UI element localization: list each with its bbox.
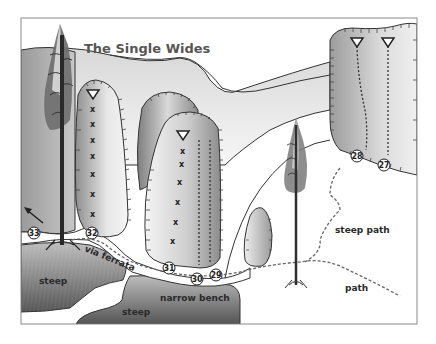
label-path: path bbox=[345, 283, 368, 293]
bolt-x-icon: x bbox=[90, 120, 96, 129]
bolt-x-icon: x bbox=[90, 105, 96, 114]
bolt-x-icon: x bbox=[90, 170, 96, 179]
bolt-x-icon: x bbox=[90, 190, 96, 199]
bolt-x-icon: x bbox=[179, 160, 185, 169]
label-steep-left: steep bbox=[39, 276, 68, 286]
route-number-32[interactable]: 32 bbox=[86, 227, 98, 239]
route-number-circle-icon: 28 bbox=[351, 152, 363, 161]
bolt-x-icon: x bbox=[90, 136, 96, 145]
route-number-circle-icon: 32 bbox=[86, 229, 97, 238]
route-number-circle-icon: 27 bbox=[378, 161, 389, 170]
bolt-x-icon: x bbox=[170, 237, 176, 246]
route-number-27[interactable]: 27 bbox=[378, 159, 390, 171]
bolt-x-icon: x bbox=[175, 198, 181, 207]
bolt-x-icon: x bbox=[177, 178, 183, 187]
route-number-circle-icon: 31 bbox=[163, 264, 175, 273]
route-number-31[interactable]: 31 bbox=[163, 262, 175, 274]
route-number-circle-icon: 29 bbox=[210, 271, 222, 280]
route-number-28[interactable]: 28 bbox=[351, 150, 363, 162]
route-number-29[interactable]: 29 bbox=[210, 269, 222, 281]
bolt-x-icon: x bbox=[90, 152, 96, 161]
bolt-x-icon: x bbox=[173, 218, 179, 227]
diagram-title: The Single Wides bbox=[84, 41, 211, 56]
bolt-x-icon: x bbox=[90, 210, 96, 219]
label-steep-bottom: steep bbox=[122, 307, 151, 317]
topo-diagram: x x x x x x x x x x x x x bbox=[0, 0, 436, 344]
bolt-x-icon: x bbox=[180, 147, 186, 156]
route-number-30[interactable]: 30 bbox=[191, 273, 203, 285]
route-number-circle-icon: 30 bbox=[191, 275, 203, 284]
label-narrow-bench: narrow bench bbox=[160, 293, 230, 303]
route-number-33[interactable]: 33 bbox=[28, 227, 40, 239]
route-number-circle-icon: 33 bbox=[28, 229, 39, 238]
label-steep-path: steep path bbox=[335, 225, 390, 235]
